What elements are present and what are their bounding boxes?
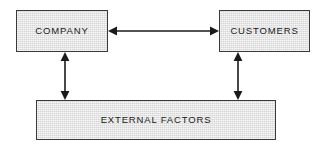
node-company-label: COMPANY [35,26,88,36]
node-customers[interactable]: CUSTOMERS [219,10,310,52]
node-customers-label: CUSTOMERS [230,26,298,36]
node-external-factors-label: EXTERNAL FACTORS [101,115,212,125]
arrowhead-up [61,52,70,61]
arrowhead-left [108,27,117,36]
node-external-factors[interactable]: EXTERNAL FACTORS [36,100,276,140]
node-company[interactable]: COMPANY [16,10,108,52]
arrowhead-right [210,27,219,36]
diagram-canvas: COMPANY CUSTOMERS EXTERNAL FACTORS [0,0,326,151]
arrowhead-up [234,52,243,61]
arrowhead-down [61,91,70,100]
connector-company-customers-double-arrow-icon [106,22,221,40]
connector-customers-external-double-arrow-icon [229,50,247,102]
arrowhead-down [234,91,243,100]
connector-company-external-double-arrow-icon [56,50,74,102]
